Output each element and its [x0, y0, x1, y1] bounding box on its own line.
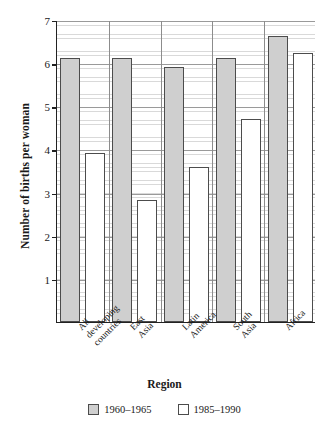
white-swatch — [178, 404, 189, 415]
y-tick-1 — [52, 280, 57, 281]
bar — [268, 36, 288, 322]
bar-group — [164, 67, 209, 322]
y-tick-4 — [52, 150, 57, 151]
bar-group — [268, 36, 313, 322]
bar-group — [216, 58, 261, 322]
bar-group — [60, 58, 105, 322]
bar-group — [112, 58, 157, 322]
y-tick-5 — [52, 107, 57, 108]
group-separator — [109, 21, 110, 322]
x-axis-category-labels: All developing countriesEast AsiaLatin A… — [56, 325, 315, 380]
bar — [241, 119, 261, 322]
y-tick-label-3: 3 — [45, 188, 51, 199]
y-tick-7 — [52, 21, 57, 22]
gray-swatch — [88, 404, 99, 415]
legend-item: 1985–1990 — [178, 404, 241, 415]
y-tick-label-1: 1 — [45, 274, 51, 285]
bar — [112, 58, 132, 322]
bar-chart-figure: Number of births per woman 1234567 All d… — [0, 0, 329, 429]
group-separator — [212, 21, 213, 322]
y-axis-title: Number of births per woman — [19, 56, 31, 296]
y-tick-6 — [52, 64, 57, 65]
legend-label: 1985–1990 — [194, 404, 241, 415]
x-axis-title: Region — [0, 378, 329, 390]
gridline-7 — [57, 21, 315, 22]
chart-legend: 1960–19651985–1990 — [0, 404, 329, 415]
bar — [293, 53, 313, 322]
bar — [137, 200, 157, 322]
y-tick-label-7: 7 — [45, 16, 51, 27]
y-tick-label-4: 4 — [45, 145, 51, 156]
y-tick-3 — [52, 194, 57, 195]
bar — [189, 167, 209, 322]
y-tick-2 — [52, 237, 57, 238]
y-tick-label-5: 5 — [45, 102, 51, 113]
plot-area: 1234567 — [56, 21, 315, 323]
y-tick-label-2: 2 — [45, 231, 51, 242]
legend-label: 1960–1965 — [104, 404, 151, 415]
y-tick-label-6: 6 — [45, 59, 51, 70]
bar — [60, 58, 80, 322]
group-separator — [264, 21, 265, 322]
bar — [164, 67, 184, 322]
group-separator — [161, 21, 162, 322]
bar — [216, 58, 236, 322]
legend-item: 1960–1965 — [88, 404, 151, 415]
